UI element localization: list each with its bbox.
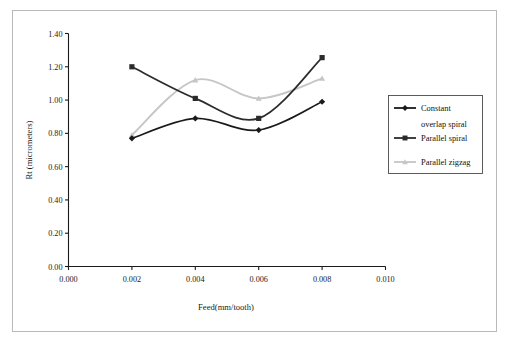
x-tick-label: 0.008 [313,275,331,284]
plot-axes [69,34,386,267]
y-tick-label: 0.20 [48,229,62,238]
legend-label-continued: overlap spiral [421,120,467,129]
data-point-marker [320,55,325,60]
x-tick-label: 0.006 [249,275,267,284]
y-tick-label: 0.00 [48,263,62,272]
x-axis-title: Feed(mm/tooth) [198,302,254,312]
data-point-marker [319,99,325,105]
x-axis-ticks: 0.0000.0020.0040.0060.0080.010 [59,267,394,284]
chart-legend[interactable]: Constantoverlap spiralParallel spiralPar… [389,96,483,174]
y-tick-label: 0.40 [48,196,62,205]
y-axis-title: Rt (micrometers) [24,120,34,179]
legend-label: Parallel spiral [421,134,468,143]
x-tick-label: 0.010 [376,275,394,284]
x-tick-label: 0.004 [186,275,204,284]
legend-marker [403,136,408,141]
y-tick-label: 0.60 [48,163,62,172]
data-point-marker [193,96,198,101]
series-line [132,78,322,135]
y-tick-label: 1.00 [48,96,62,105]
series-1 [129,99,325,142]
x-tick-label: 0.000 [59,275,77,284]
y-tick-label: 1.40 [48,30,62,39]
series-line [132,102,322,139]
data-point-marker [256,127,262,133]
data-point-marker [256,116,261,121]
series-layer [129,55,325,141]
y-tick-label: 1.20 [48,63,62,72]
y-axis-ticks: 0.000.200.400.600.801.001.201.40 [48,30,68,272]
data-point-marker [319,75,325,80]
x-tick-label: 0.002 [123,275,141,284]
line-chart: 0.000.200.400.600.801.001.201.40 0.0000.… [0,0,511,347]
legend-label: Parallel zigzag [421,158,471,167]
legend-label: Constant [421,104,451,113]
data-point-marker [192,115,198,121]
chart-canvas: 0.000.200.400.600.801.001.201.40 0.0000.… [0,0,511,347]
y-tick-label: 0.80 [48,129,62,138]
data-point-marker [129,64,134,69]
